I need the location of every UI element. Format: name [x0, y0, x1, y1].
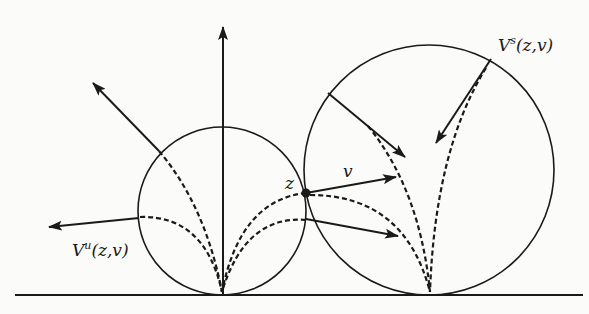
stable-vectors	[328, 59, 491, 157]
vector-v-label: v	[343, 163, 353, 180]
unstable-vectors	[49, 83, 159, 227]
unstable-vector-left	[49, 218, 139, 227]
stable-vector-right	[436, 59, 491, 143]
stable-vector-left	[328, 93, 405, 157]
lower-right-vector-arrow	[306, 219, 398, 236]
stable-geodesics	[310, 68, 486, 292]
stable-horocycle	[304, 45, 554, 295]
point-z-dot	[302, 189, 311, 198]
unstable-horocycle-label: Vu(z,v)	[72, 242, 129, 259]
diagram-canvas: Vu(z,v) Vs(z,v) z v	[0, 0, 589, 314]
stable-horocycle-label: Vs(z,v)	[498, 37, 553, 54]
point-z-label: z	[285, 175, 294, 192]
unstable-vector-upper-left	[93, 83, 159, 151]
